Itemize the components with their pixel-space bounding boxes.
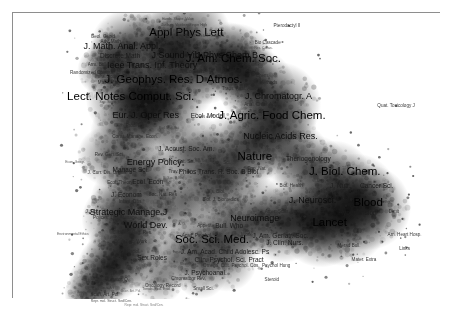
journal-label: Math. Mag.: [98, 81, 121, 86]
journal-label: Const. Manage. Econ.: [112, 135, 157, 140]
journal-label: Soc. Nat. Res: [149, 192, 177, 197]
journal-label: Acad. Psychol.: [182, 234, 212, 239]
journal-label: Adv. Math.: [101, 39, 123, 44]
journal-label: Philos Trans. R. Soc. B Biol: [179, 168, 258, 175]
journal-label: Discrete Math: [100, 53, 140, 60]
journal-label: Bull. Who: [215, 223, 243, 230]
journal-label: Blood: [353, 197, 382, 209]
journal-label: Sal. Sci.: [195, 160, 207, 163]
journal-label: Nucleic Acids Res.: [243, 132, 318, 141]
journal-label: Energy Policy: [127, 157, 182, 166]
journal-label: Environmental Ethics: [57, 233, 89, 236]
journal-label: J. Acoust. Soc. Am.: [158, 146, 214, 153]
journal-label: Small Sci.: [193, 287, 213, 292]
journal-label: Trav.: [169, 169, 179, 174]
journal-label: Merad Bull.: [337, 244, 360, 249]
journal-label: Biol. J. Biomedics: [202, 198, 238, 203]
journal-label: Biol. Health: [279, 184, 303, 189]
journal-labels-layer: Lect. Notes Comput. Sci.J. Am. Chem. Soc…: [13, 13, 441, 299]
journal-label: Tetrahedron: [139, 87, 157, 90]
journal-label: Rev. Gen. Sci.: [95, 152, 124, 157]
journal-label: Ecol. Theory: [107, 181, 133, 186]
journal-label: J. Agric. Food Chem.: [218, 110, 325, 122]
journal-label: Lect. Notes Comput. Sci.: [67, 92, 194, 104]
journal-label: J. Chromatogr. A: [245, 91, 312, 100]
journal-label: Anal. Chim. Acta: [244, 102, 278, 107]
journal-label: Biol. Methods: [249, 81, 277, 86]
journal-label: El. Chem.: [249, 74, 269, 79]
journal-label: Vis. Biol.: [207, 190, 225, 195]
caption-line-2: Repr. mol. Struct. Sed/Cen.: [125, 303, 164, 307]
journal-label: Work: [241, 232, 252, 237]
journal-label: J Sound Vib: [151, 50, 199, 59]
journal-label: Repr. mol. Struct. Sed/Cen.: [91, 300, 132, 303]
journal-label: Dimit: [389, 210, 399, 215]
journal-label: Am. Heart Hosp.: [388, 232, 422, 237]
journal-label: Inquiry: [173, 251, 183, 254]
journal-label: Tanburg. Viceberg Finger High: [161, 24, 207, 27]
journal-label: World Dev.: [124, 220, 168, 229]
journal-label: J. Geophys. Res. D Atmos.: [104, 74, 242, 86]
journal-label: Sex Roles: [137, 254, 167, 261]
journal-label: Theriogenology: [286, 156, 331, 163]
journal-label: J. Urban Reg. Res.: [113, 231, 152, 236]
journal-label: Infant. Obs.: [119, 200, 143, 205]
journal-label: Rhizo. Res.: [180, 263, 198, 266]
journal-label: Econ. Geogr.: [65, 161, 85, 164]
journal-label: Amer. Scan. Behav.: [265, 210, 305, 215]
journal-label: Polices. Libr. Manage.: [93, 215, 138, 220]
journal-label: Chromatogr Rev.: [171, 277, 206, 282]
journal-label: J. Nutr.: [330, 183, 351, 190]
journal-label: J. Curr. Dis. Organ.: [88, 171, 127, 176]
journal-label: Links: [399, 247, 410, 252]
journal-label: Biol. Mat. Sci.: [159, 127, 180, 130]
journal-label: Neuroimage: [230, 213, 279, 222]
journal-label: J Phys Chem B: [196, 50, 258, 59]
journal-label: R. Soc. B Biol: [163, 177, 184, 180]
journal-label: A. G.: [178, 223, 186, 226]
journal-label: Tech. Mech. Eng Int.: [154, 30, 185, 33]
journal-label: Hands. Shape. Value: [162, 18, 194, 21]
journal-label: Pterodactyl II: [273, 24, 300, 29]
journal-label: Appetite: [197, 224, 214, 229]
plot-frame: Lect. Notes Comput. Sci.J. Am. Chem. Soc…: [12, 12, 440, 298]
journal-label: Br. J. Soc. Work: [114, 240, 147, 245]
journal-label: Arm. Bulletin: [88, 62, 114, 67]
journal-label: J. Neurosci.: [289, 196, 337, 205]
journal-label: Omega. Cult. Psychol. Cos.: [203, 264, 259, 269]
journal-label: Res. Cacas.: [254, 47, 272, 50]
journal-label: Am. J. Sociol.: [112, 250, 140, 255]
journal-label: Sat. Sci.: [178, 159, 195, 164]
journal-label: Trends. Ecol. Evol.: [142, 289, 170, 292]
journal-label: Lancet: [312, 217, 347, 229]
journal-label: J. Biol. Chem.: [309, 166, 381, 178]
journal-label: Infra. Sci.: [95, 75, 114, 80]
journal-label: Scan. Hemati.: [77, 292, 98, 295]
science-map-figure: Lect. Notes Comput. Sci.J. Am. Chem. Soc…: [0, 0, 453, 313]
journal-label: Quat. Toxicology J: [377, 104, 414, 109]
journal-label: Trans. Anal. Analyst: [222, 87, 262, 92]
journal-label: J. Am. Acad. Child Adolesc. Ps: [181, 249, 270, 256]
journal-label: Sep. Scien. Sci.: [99, 101, 123, 104]
journal-label: J. Econom: [111, 191, 142, 198]
journal-label: Eur. J. Oper Res: [112, 110, 179, 119]
journal-label: Sci.: [223, 161, 231, 166]
journal-label: Curator. Q.: [107, 278, 129, 283]
journal-label: Mech. Combust.: [161, 67, 186, 70]
journal-label: Bio Cascade: [255, 41, 281, 46]
journal-label: Cancer Sci.: [360, 183, 394, 190]
journal-label: Chem.: [156, 84, 166, 87]
journal-label: Nature: [238, 152, 273, 164]
journal-label: Steroid: [265, 278, 280, 283]
journal-label: J. Clin. Nurs.: [266, 240, 303, 247]
journal-label: Ecol. Model: [191, 113, 225, 120]
journal-label: Pop. Nat.: [247, 167, 266, 172]
journal-label: Scan. Art.: [100, 287, 115, 290]
journal-label: Sun. Soc. Sci.: [120, 267, 141, 270]
journal-label: Mater. Extra: [352, 258, 377, 263]
journal-label: Clan. Phys. C. Q. Technol. Sci. Mic. Con…: [156, 36, 225, 39]
journal-label: Ecol. Econ: [132, 178, 163, 185]
journal-label: Psychol Hung: [262, 264, 290, 269]
journal-label: Hypertension: [338, 210, 376, 217]
journal-label: Proc. Lgwl.: [126, 124, 149, 129]
